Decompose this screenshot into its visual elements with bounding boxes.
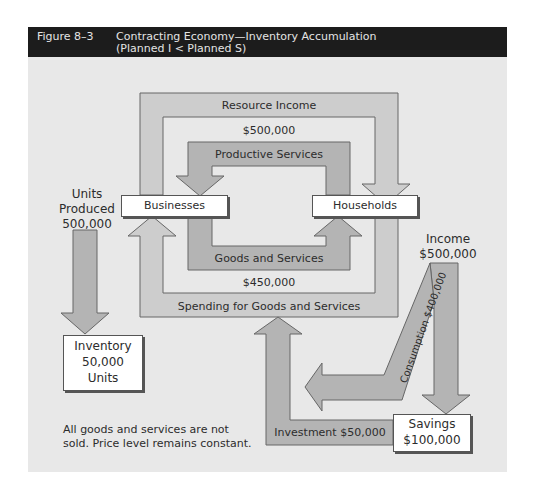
inventory-line3: Units [64, 370, 142, 386]
footnote-line2: sold. Price level remains constant. [63, 437, 252, 451]
resource-income-value: $500,000 [163, 124, 375, 137]
goods-services-label: Goods and Services [188, 252, 350, 265]
spending-label: Spending for Goods and Services [140, 300, 398, 313]
units-produced-label: Units Produced 500,000 [52, 187, 122, 232]
units-produced-line2: Produced [52, 202, 122, 217]
inventory-line2: 50,000 [64, 354, 142, 370]
savings-line1: Savings [394, 416, 470, 432]
income-line1: Income [408, 232, 488, 247]
productive-services-label: Productive Services [188, 148, 350, 161]
savings-node: Savings $100,000 [393, 414, 471, 452]
households-node: Households [312, 195, 418, 217]
businesses-node: Businesses [121, 195, 228, 217]
footnote-line1: All goods and services are not [63, 423, 252, 437]
footnote: All goods and services are not sold. Pri… [63, 423, 252, 451]
inventory-line1: Inventory [64, 338, 142, 354]
spending-value: $450,000 [163, 276, 375, 289]
units-produced-line3: 500,000 [52, 217, 122, 232]
units-produced-line1: Units [52, 187, 122, 202]
inventory-node: Inventory 50,000 Units [63, 335, 143, 391]
units-produced-arrow [61, 230, 109, 334]
income-label: Income $500,000 [408, 232, 488, 262]
savings-line2: $100,000 [394, 432, 470, 448]
income-line2: $500,000 [408, 247, 488, 262]
investment-label: Investment $50,000 [270, 426, 390, 439]
resource-income-label: Resource Income [140, 99, 398, 112]
